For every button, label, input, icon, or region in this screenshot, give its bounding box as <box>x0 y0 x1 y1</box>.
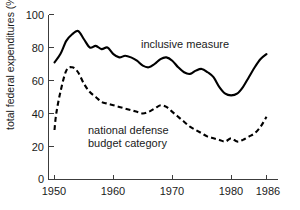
x-tick-label-1986: 1986 <box>256 185 280 197</box>
y-tick-label-0: 0 <box>38 173 44 185</box>
x-tick-label-1960: 1960 <box>101 185 125 197</box>
y-tick-label-20: 20 <box>32 141 44 153</box>
x-tick-label-1950: 1950 <box>42 185 66 197</box>
chart-figure: total federal expenditures (%) 100 80 60… <box>0 0 300 210</box>
y-tick-label-100: 100 <box>26 9 44 21</box>
y-tick-label-60: 60 <box>32 75 44 87</box>
annotation-national-defense-line1: national defense <box>88 124 169 136</box>
x-tick-label-1980: 1980 <box>219 185 243 197</box>
annotation-inclusive-measure: inclusive measure <box>141 38 229 50</box>
x-tick-label-1970: 1970 <box>160 185 184 197</box>
annotation-national-defense-line2: budget category <box>88 137 167 149</box>
y-tick-label-80: 80 <box>32 42 44 54</box>
line-chart: total federal expenditures (%) 100 80 60… <box>0 0 300 210</box>
y-axis-title: total federal expenditures (%) <box>4 0 16 130</box>
y-tick-label-40: 40 <box>32 108 44 120</box>
